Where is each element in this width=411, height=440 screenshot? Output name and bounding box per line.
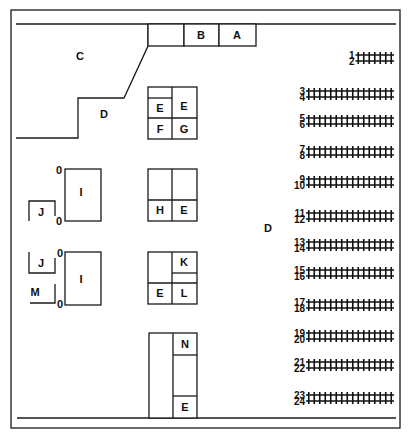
- label-g: G: [180, 123, 189, 135]
- seat-row: 1: [349, 50, 394, 61]
- label-e: E: [180, 100, 187, 112]
- label-e: E: [181, 401, 188, 413]
- booth-i: [65, 169, 101, 221]
- mark-0: 0: [57, 247, 63, 259]
- left-unit-upper: I J 0 0: [29, 164, 101, 227]
- row-number: 4: [299, 92, 305, 103]
- label-c: C: [76, 50, 84, 62]
- row-number: 10: [294, 180, 306, 191]
- label-a: A: [233, 29, 241, 41]
- label-j: J: [38, 206, 44, 218]
- row-number: 6: [299, 119, 305, 130]
- label-l: L: [181, 287, 188, 299]
- upper-block: E E F G: [148, 87, 197, 139]
- label-i: I: [79, 273, 82, 285]
- label-n: N: [181, 338, 189, 350]
- middle-block: H E: [148, 169, 197, 221]
- row-number: 2: [349, 56, 355, 67]
- label-d-left: D: [100, 108, 108, 120]
- bottom-block: N E: [149, 333, 197, 418]
- mark-0: 0: [56, 164, 62, 176]
- top-box-row: B A: [148, 24, 256, 46]
- mark-0: 0: [57, 298, 63, 310]
- row-number: 16: [294, 271, 306, 282]
- label-d-center: D: [264, 222, 272, 234]
- box-blank: [148, 24, 184, 46]
- row-number: 24: [294, 396, 306, 407]
- floor-plan: B A C D D E E F G H E K E L N: [0, 0, 411, 440]
- row-number: 20: [294, 334, 306, 345]
- label-h: H: [156, 204, 164, 216]
- label-b: B: [197, 29, 205, 41]
- booth-i: [65, 252, 101, 305]
- row-number: 8: [299, 150, 305, 161]
- left-unit-lower: I J 0 M 0: [29, 247, 101, 310]
- label-f: F: [157, 123, 164, 135]
- seat-rows: 123456789101112131415161718192021222324: [294, 50, 394, 407]
- row-number: 18: [294, 303, 306, 314]
- label-k: K: [180, 256, 188, 268]
- label-e: E: [180, 204, 187, 216]
- mark-0: 0: [56, 215, 62, 227]
- label-e: E: [156, 287, 163, 299]
- label-j: J: [38, 257, 44, 269]
- lower-block: K E L: [148, 252, 197, 304]
- row-number: 12: [294, 214, 306, 225]
- row-number: 22: [294, 363, 306, 374]
- seat-row: 2: [349, 56, 394, 67]
- label-e: E: [156, 102, 163, 114]
- row-number: 14: [294, 243, 306, 254]
- label-m: M: [30, 286, 39, 298]
- stage-outline: [16, 24, 148, 138]
- label-i: I: [79, 186, 82, 198]
